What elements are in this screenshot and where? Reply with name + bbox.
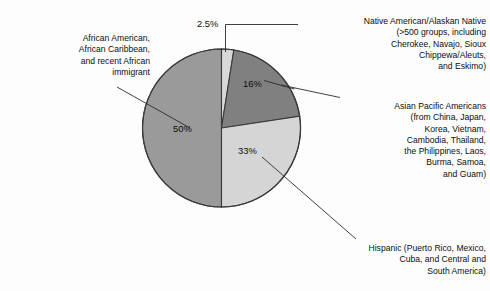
slice-value-native: 2.5% [197,18,218,29]
callout-label-native-american: Native American/Alaskan Native (>500 gro… [300,16,486,72]
callout-label-hispanic: Hispanic (Puerto Rico, Mexico, Cuba, and… [300,243,486,277]
pie-chart-figure: African American, African Caribbean, and… [0,0,490,291]
callout-label-asian-pacific: Asian Pacific Americans (from China, Jap… [300,101,486,180]
leader-line-native [226,25,299,53]
slice-value-hispanic: 33% [238,145,257,156]
callout-label-african: African American, African Caribbean, and… [18,33,150,78]
slice-value-african: 50% [173,123,192,134]
slice-value-asian: 16% [243,78,262,89]
pie-slice-hispanic[interactable] [222,116,301,207]
